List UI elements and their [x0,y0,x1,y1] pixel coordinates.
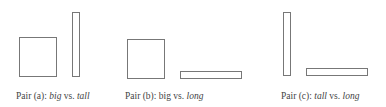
pair-b-caption: Pair (b): big vs. long [125,90,203,102]
tall-rectangle-shape [72,12,80,77]
pair-c-caption: Pair (c): tall vs. long [281,90,359,102]
caption-vs: vs. [61,91,77,101]
caption-second-term: long [187,91,204,101]
caption-prefix: Pair (a): [16,91,49,101]
caption-vs: vs. [327,91,343,101]
caption-vs: vs. [171,91,187,101]
caption-second-term: long [343,91,360,101]
caption-first-term: big [49,91,61,101]
long-rectangle-shape [180,71,242,79]
big-square-shape [19,37,57,77]
caption-first-term: big [159,91,171,101]
big-square-shape [127,39,165,79]
caption-prefix: Pair (c): [281,91,314,101]
long-rectangle-shape [306,68,368,76]
caption-prefix: Pair (b): [125,91,159,101]
caption-first-term: tall [314,91,327,101]
tall-rectangle-shape [283,12,291,76]
pair-a-caption: Pair (a): big vs. tall [16,90,90,102]
caption-second-term: tall [77,91,90,101]
